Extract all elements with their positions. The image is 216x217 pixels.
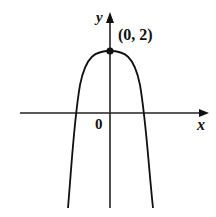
y-axis-label: y (96, 9, 103, 26)
graph-figure: y (0, 2) 0 x (0, 0, 216, 217)
vertex-point (106, 47, 113, 54)
y-axis-arrow-icon (106, 12, 114, 23)
origin-label: 0 (95, 116, 103, 133)
x-axis-label: x (197, 116, 205, 134)
point-label: (0, 2) (118, 26, 153, 44)
graph-canvas (0, 0, 216, 217)
